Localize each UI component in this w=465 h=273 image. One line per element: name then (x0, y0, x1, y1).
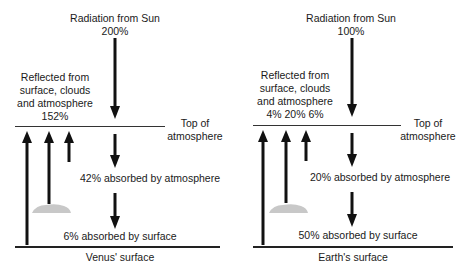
venus-atmosphere-arrow-icon (110, 134, 120, 168)
venus-reflected-atmosphere-arrow-icon (64, 131, 74, 162)
venus-incoming-arrow-icon (110, 38, 120, 119)
earth-arrows (233, 0, 465, 273)
earth-panel: Radiation from Sun 100% Reflected from s… (233, 0, 465, 273)
earth-incoming-arrow-icon (347, 38, 357, 117)
venus-reflected-surface-arrow-icon (22, 131, 32, 245)
venus-reflected-cloud-arrow-icon (44, 131, 54, 204)
earth-reflected-surface-arrow-icon (258, 130, 268, 245)
venus-surface-arrow-icon (110, 193, 120, 229)
earth-reflected-cloud-arrow-icon (281, 130, 291, 203)
earth-surface-arrow-icon (347, 192, 357, 227)
venus-cloud-icon (32, 204, 71, 213)
venus-arrows (0, 0, 232, 273)
earth-atmosphere-arrow-icon (347, 133, 357, 167)
earth-reflected-atmosphere-arrow-icon (301, 130, 311, 161)
venus-panel: Radiation from Sun 200% Reflected from s… (0, 0, 232, 273)
earth-cloud-icon (269, 204, 308, 213)
